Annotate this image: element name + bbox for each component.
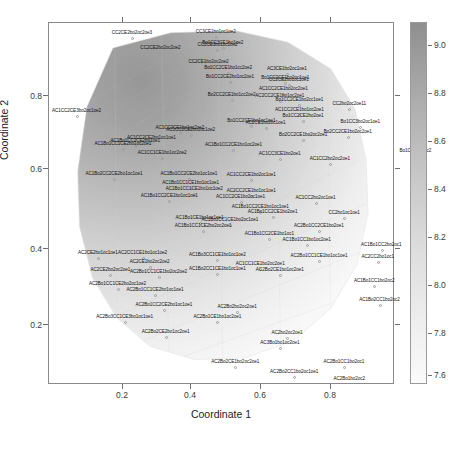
data-point-label: Bo1CC2CE2bo1oc2oe1 <box>206 74 254 79</box>
data-point-label: AC2Bo2CE1bo2oc2oe1 <box>211 359 259 364</box>
data-point-label: AC1Bo1CC1CE1bo2oc1oe1 <box>201 217 258 222</box>
data-point-label: AC2CC1CE1bo1oc1oe2 <box>118 250 167 255</box>
data-point-label: AC2CC2bo1oc1 <box>361 254 394 259</box>
data-point-label: Bo1CC2CE1bo2cc1oe1 <box>275 97 323 102</box>
data-point-label: CC2CE2bo1oc1oe1 <box>269 77 309 82</box>
data-point-label: AC1CC2CE1bo2oc2oe1 <box>259 86 308 91</box>
colorbar-label-7.8: 7.8 <box>434 328 446 338</box>
data-point-label: AC2Bo1CC1bo2oc1 <box>324 359 365 364</box>
data-point-label: AC2CC2CE1bo1oc1oe1 <box>227 188 276 193</box>
data-point-label: AC2CE2bo2oc2oe1 <box>90 267 130 272</box>
data-point-label: AC1CC2CE1bo1oc2oe1 <box>275 107 324 112</box>
data-point-label: CC2bo1oc1oe1 <box>329 210 360 215</box>
point-labels-layer: CC2CE2bo2oc2oe3CC3CE1bo1oc1oe2Bo1CC3CE1b… <box>0 0 459 451</box>
colorbar-tick <box>428 45 432 46</box>
data-point-label: AC1Bo2CC1bo2oc2 <box>359 297 400 302</box>
data-point-label: AC1CC2CE2bo1oc1oe2 <box>166 127 215 132</box>
data-point-label: AC1Bo1CC1CE2bo1oc2oe1 <box>94 141 151 146</box>
data-point-label: AC2Bo3CC1CE3bo1oc1oe1 <box>96 314 153 319</box>
colorbar-tick <box>428 189 432 190</box>
colorbar-tick <box>428 333 432 334</box>
colorbar-label-9.0: 9.0 <box>434 40 446 50</box>
data-point-label: AC1CC2CE1bo2oc1oe1 <box>227 172 276 177</box>
data-point-label: AC2Bo1CC2CE2bo1oc1oe1 <box>135 302 192 307</box>
data-point-label: AC1CC2bo2oc2oe1 <box>310 156 350 161</box>
data-point-label: AC1Bo3CC1CE1bo1oc1oe2 <box>189 252 246 257</box>
colorbar-tick <box>428 93 432 94</box>
data-point-label: AC1CC3CE1bo2oe1 <box>259 151 301 156</box>
colorbar <box>410 22 427 384</box>
colorbar-tick <box>428 237 432 238</box>
data-point-label: AC1Bo1CC1bo1oc2oe1 <box>283 237 331 242</box>
data-point-label: AC1CC2CE1bo2oc1oe1 <box>216 194 265 199</box>
data-point-label: CC2CE2bo2oc2oe2 <box>140 45 180 50</box>
data-point-label: AC1CC2CE3bo2oc1oe2 <box>52 108 101 113</box>
data-point-label: AC1Bo1CC2bo2oc1 <box>361 242 402 247</box>
data-point-label: AC2Bo2CC1bo2oc1oe1 <box>270 369 318 374</box>
data-point-label: AC1Bo1CC2CE1bo1oc2oe1 <box>205 142 262 147</box>
data-point-label: AC1Bo2CC1CE1bo1oc1oe1 <box>189 266 246 271</box>
data-point-label: AC2Bo1CE1bo1oc2oe1 <box>193 314 241 319</box>
data-point-label: CC3CE1bo1oc1oe2 <box>196 29 236 34</box>
plot-canvas: Coordinate 2 0.8 0.6 0.4 0.2 Coordinate … <box>0 0 459 451</box>
data-point-label: CC2CE3bo1oc1oe2 <box>197 42 237 47</box>
colorbar-label-8.0: 8.0 <box>434 280 446 290</box>
data-point-label: AC1CC2bo2oc1oe1 <box>296 195 336 200</box>
colorbar-tick <box>428 375 432 376</box>
colorbar-label-8.6: 8.6 <box>434 136 446 146</box>
colorbar-tick <box>428 141 432 142</box>
data-point-label: AC2Bo1CC1CE1bo1oc1oe1 <box>291 253 348 258</box>
data-point-label: AC2Bo1bo2oc2 <box>333 376 365 381</box>
data-point-label: AC2Bo1CC1CE2bo2oc1oe2 <box>89 281 146 286</box>
data-point-label: AC1Bo1CC2CE2bo1oc1oe1 <box>160 171 217 176</box>
colorbar-tick <box>428 285 432 286</box>
data-point-label: AC1Bo1CC2CE1bo2oe1 <box>248 209 298 214</box>
data-point-label: AC2Bo2CE1bo1oc2oe1 <box>256 267 304 272</box>
data-point-label: AC1Bo2CC2CE2bo1oc1oe1 <box>85 171 142 176</box>
data-point-label: AC1Bo1CC2CE1bo1oc1 <box>245 231 294 236</box>
data-point-label: AC1Bo1CC2CE1bo1oc1oe1 <box>141 193 198 198</box>
data-point-label: AC1Bo1CC1bo2oc2 <box>354 278 395 283</box>
data-point-label: AC3Bo1bo1oc2oe1 <box>260 340 299 345</box>
data-point-label: AC2Bo1CC1CE1bo2oc2oe2 <box>130 269 187 274</box>
data-point-label: AC2CE2bo1oc1oe1 <box>78 250 118 255</box>
data-point-label: Bo2CC2CE1bo2oc2oe1 <box>324 129 372 134</box>
data-point-label: CC2bo2oc2oe11 <box>332 101 366 106</box>
data-point-label: AC3CE1bo2oc1oe1 <box>267 66 307 71</box>
data-point-label: Bo1CC2CE2bo2oe1 <box>283 113 324 118</box>
colorbar-label-8.2: 8.2 <box>434 232 446 242</box>
data-point-label: Bo2CC2CE1bo1cc2oe2 <box>208 92 256 97</box>
data-point-label: AC2Bo2bo2oc2oe1 <box>218 304 257 309</box>
data-point-label: AC1Bo1CC1CE1bo1oc1oe2 <box>166 186 223 191</box>
colorbar-label-7.6: 7.6 <box>434 370 446 380</box>
data-point-label: AC2Bo1CC1CE2bo1oc1oe1 <box>127 287 184 292</box>
data-point-label: AC2bo2oc2oe1 <box>271 330 302 335</box>
data-point-label: AC2CE1bo2oc1oe1 <box>246 120 286 125</box>
data-point-label: AC1Bo1CC1CE1bo1oc1oe1 <box>162 180 219 185</box>
colorbar-label-8.8: 8.8 <box>434 88 446 98</box>
colorbar-label-8.4: 8.4 <box>434 184 446 194</box>
data-point-label: AC1CC1CE1bo1oc2oe2 <box>138 150 187 155</box>
data-point-label: AC2Bo2CE2bo1oc2oe1 <box>142 329 190 334</box>
data-point-label: Bo1CC2CE1bo1cc2oe2 <box>204 65 252 70</box>
data-point-label: CC2CE2bo2oc2oe3 <box>112 30 152 35</box>
data-point-label: AC1Bo1CC1CE2bo2oc2oe1 <box>175 223 232 228</box>
data-point-label: AC2CE1bo2oc2oe2 <box>130 259 170 264</box>
data-point-label: Bo2CC2CE1bo2oc2oe1 <box>279 132 327 137</box>
data-point-label: Bo1CC3bo2oc1oe1 <box>341 119 380 124</box>
data-point-label: CC2CE1bo2oc2oe2 <box>189 59 229 64</box>
data-point-label: AC2Bo1CC2CE1bo2oe1 <box>294 223 344 228</box>
